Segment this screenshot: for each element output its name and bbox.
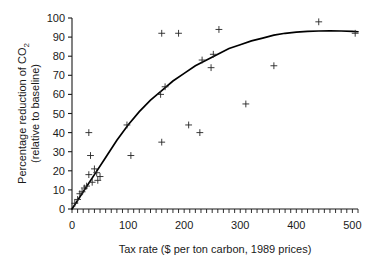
data-point bbox=[157, 91, 164, 98]
chart-container: 01020304050607080901000100200300400500Ta… bbox=[0, 0, 370, 263]
data-point bbox=[158, 139, 165, 146]
y-tick-label: 40 bbox=[53, 127, 65, 139]
x-tick-label: 100 bbox=[119, 219, 137, 231]
data-point bbox=[87, 152, 94, 159]
data-point bbox=[210, 51, 217, 58]
y-tick-label: 20 bbox=[53, 165, 65, 177]
y-tick-label: 10 bbox=[53, 184, 65, 196]
data-point bbox=[208, 64, 215, 71]
y-tick-label: 100 bbox=[47, 12, 65, 24]
data-point bbox=[185, 122, 192, 129]
x-tick-label: 500 bbox=[343, 219, 361, 231]
y-tick-label: 80 bbox=[53, 50, 65, 62]
x-tick-label: 300 bbox=[231, 219, 249, 231]
data-point bbox=[127, 152, 134, 159]
y-axis-title-line2: (relative to baseline) bbox=[29, 64, 41, 163]
y-tick-label: 30 bbox=[53, 146, 65, 158]
y-tick-label: 0 bbox=[59, 203, 65, 215]
data-point bbox=[216, 26, 223, 33]
scatter-chart: 01020304050607080901000100200300400500Ta… bbox=[0, 0, 370, 263]
data-point bbox=[199, 57, 206, 64]
data-point bbox=[85, 129, 92, 136]
fit-curve bbox=[72, 31, 358, 209]
data-point bbox=[158, 30, 165, 37]
y-tick-label: 90 bbox=[53, 31, 65, 43]
x-axis-title: Tax rate ($ per ton carbon, 1989 prices) bbox=[119, 243, 312, 255]
x-tick-label: 0 bbox=[69, 219, 75, 231]
data-point bbox=[175, 30, 182, 37]
y-tick-label: 60 bbox=[53, 88, 65, 100]
y-tick-label: 70 bbox=[53, 69, 65, 81]
data-point bbox=[196, 129, 203, 136]
data-point bbox=[85, 171, 92, 178]
y-tick-label: 50 bbox=[53, 108, 65, 120]
x-tick-label: 200 bbox=[175, 219, 193, 231]
data-point bbox=[89, 179, 96, 186]
data-point bbox=[315, 18, 322, 25]
data-point bbox=[270, 62, 277, 69]
x-tick-label: 400 bbox=[287, 219, 305, 231]
data-point bbox=[242, 101, 249, 108]
